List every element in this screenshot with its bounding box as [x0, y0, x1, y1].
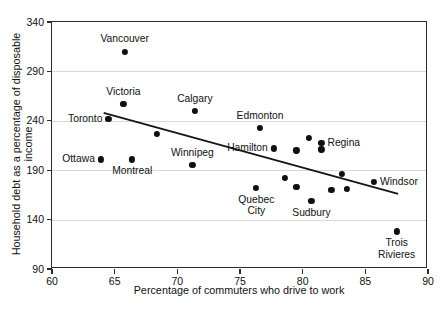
data-point-label: Hamilton — [227, 142, 268, 153]
data-point — [154, 131, 160, 137]
data-point-label: Windsor — [380, 176, 418, 187]
x-axis-title: Percentage of commuters who drive to wor… — [51, 284, 427, 296]
y-axis-title: Household debt as a percentage of dispos… — [10, 19, 34, 269]
y-axis-tick — [47, 219, 52, 220]
data-point — [293, 184, 299, 190]
x-axis-tick — [114, 269, 115, 274]
data-point — [343, 186, 349, 192]
x-axis-tick — [365, 269, 366, 274]
y-axis-tick — [47, 120, 52, 121]
data-point-label: Regina — [327, 137, 360, 148]
data-point-label: Trois Rivieres — [378, 237, 415, 259]
data-point — [293, 147, 299, 153]
data-point-label: Sudbury — [292, 207, 330, 218]
data-point — [122, 49, 128, 55]
data-point — [371, 179, 377, 185]
x-axis-tick — [427, 269, 428, 274]
data-point — [338, 171, 344, 177]
data-point — [192, 108, 198, 114]
data-point-label: Calgary — [177, 93, 212, 104]
scatter-chart-figure: 9014019024029034060657075808590Vancouver… — [0, 0, 447, 314]
data-point — [394, 228, 400, 234]
data-point-label: Quebec City — [238, 194, 274, 216]
gridline — [52, 71, 426, 72]
y-axis-tick — [47, 170, 52, 171]
x-axis-tick — [177, 269, 178, 274]
data-point — [282, 175, 288, 181]
data-point — [318, 146, 324, 152]
data-point-label: Edmonton — [237, 110, 284, 121]
x-axis-tick — [239, 269, 240, 274]
data-point-label: Victoria — [106, 86, 140, 97]
x-axis-tick — [51, 269, 52, 274]
data-point — [328, 187, 334, 193]
gridline — [52, 170, 426, 171]
data-point — [318, 139, 324, 145]
y-axis-tick — [47, 71, 52, 72]
gridline — [52, 220, 426, 221]
data-point-label: Ottawa — [62, 153, 95, 164]
data-point — [120, 101, 126, 107]
data-point — [271, 145, 277, 151]
data-point-label: Winnipeg — [171, 147, 214, 158]
data-point — [306, 135, 312, 141]
x-axis-tick — [302, 269, 303, 274]
data-point — [189, 162, 195, 168]
data-point — [253, 185, 259, 191]
data-point-label: Toronto — [68, 113, 102, 124]
data-point — [129, 156, 135, 162]
y-axis-tick — [47, 21, 52, 22]
data-point-label: Montreal — [112, 165, 152, 176]
data-point — [257, 125, 263, 131]
plot-area: 9014019024029034060657075808590Vancouver… — [51, 21, 427, 268]
data-point — [308, 198, 314, 204]
data-point-label: Vancouver — [100, 33, 148, 44]
data-point — [98, 156, 104, 162]
